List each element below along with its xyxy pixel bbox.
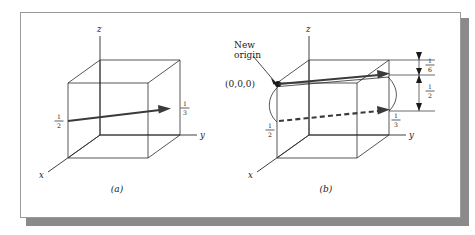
- svg-text:2: 2: [268, 131, 272, 138]
- panel-a-axes: [48, 36, 197, 172]
- panel-a-y-label: y: [199, 130, 205, 140]
- svg-text:6: 6: [428, 66, 432, 73]
- panel-b-axes: [257, 36, 406, 172]
- panel-a-left-fraction: 1 2: [55, 113, 64, 129]
- panel-a-vector: [68, 105, 171, 121]
- svg-text:1: 1: [183, 100, 187, 107]
- panel-b-x-label: x: [248, 170, 253, 180]
- panel-b-dim-mid: 1 2: [416, 75, 435, 111]
- panel-a-z-label: z: [96, 24, 102, 34]
- panel-b-dim-top: 1 6: [416, 52, 435, 75]
- panel-b-left-arc: [269, 86, 279, 122]
- panel-a-caption: (a): [111, 184, 124, 194]
- svg-text:1: 1: [57, 113, 61, 120]
- panel-b-dashed-vector: [279, 106, 390, 121]
- svg-text:1: 1: [394, 112, 398, 119]
- svg-text:1: 1: [428, 57, 432, 64]
- panel-a: z y x 1 2 1 3 (a): [39, 24, 205, 194]
- svg-text:2: 2: [428, 92, 432, 99]
- svg-text:3: 3: [394, 121, 398, 128]
- figure-root: z y x 1 2 1 3 (a): [0, 0, 475, 235]
- panel-b-new-origin-line2: origin: [234, 50, 261, 60]
- panel-b-origin-coords: (0,0,0): [225, 79, 255, 89]
- panel-a-x-label: x: [39, 170, 44, 180]
- panel-b: z y x New origin (0,0,0): [225, 24, 435, 194]
- svg-text:2: 2: [57, 122, 61, 129]
- panel-b-caption: (b): [320, 184, 333, 194]
- panel-b-z-label: z: [305, 24, 311, 34]
- panel-a-right-fraction: 1 3: [181, 100, 190, 116]
- panel-b-new-origin-line1: New: [234, 40, 255, 50]
- svg-text:1: 1: [268, 122, 272, 129]
- panel-b-left-fraction: 1 2: [266, 122, 275, 138]
- panel-b-right-fraction: 1 3: [392, 112, 401, 128]
- panel-b-y-label: y: [408, 130, 414, 140]
- svg-text:1: 1: [428, 83, 432, 90]
- svg-text:3: 3: [183, 109, 187, 116]
- figure-canvas: z y x 1 2 1 3 (a): [0, 0, 475, 235]
